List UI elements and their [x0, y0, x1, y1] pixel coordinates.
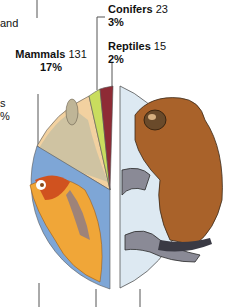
partial-text: % [0, 110, 10, 122]
conifers-count: 23 [156, 3, 168, 15]
label-conifers: Conifers 23 3% [108, 3, 168, 29]
reptiles-count: 15 [154, 40, 166, 52]
partial-text: s [0, 97, 6, 109]
partial-text: and [0, 17, 18, 29]
mammals-name: Mammals [15, 48, 65, 60]
conifers-name: Conifers [108, 3, 153, 15]
frog-eye-highlight [148, 114, 156, 120]
conifers-percent: 3% [108, 16, 124, 28]
mammal-ear [66, 99, 78, 125]
parrot-eye [40, 183, 44, 187]
reptiles-name: Reptiles [108, 40, 151, 52]
label-partial-top: and [0, 17, 18, 30]
label-partial-left: s % [0, 97, 10, 123]
reptiles-percent: 2% [108, 53, 124, 65]
mammals-count: 131 [68, 48, 86, 60]
frog-eye [144, 110, 166, 130]
mammals-percent: 17% [40, 61, 62, 73]
label-mammals: Mammals 131 17% [3, 48, 99, 74]
label-reptiles: Reptiles 15 2% [108, 40, 166, 66]
